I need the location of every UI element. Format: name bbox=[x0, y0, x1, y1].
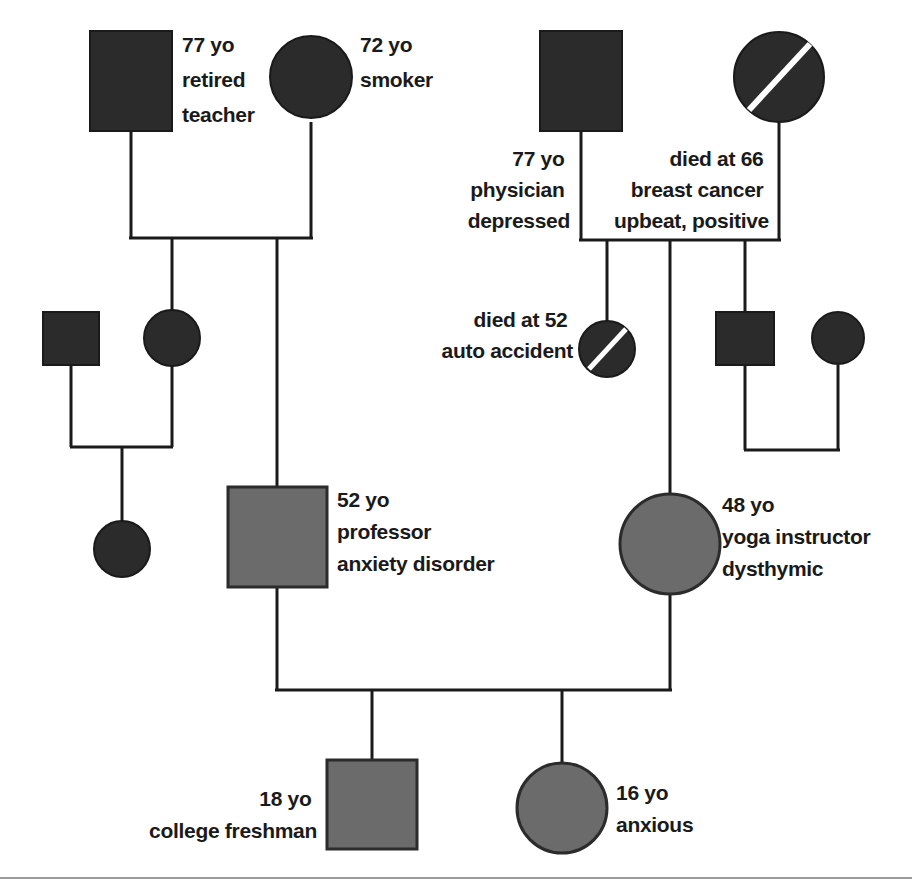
person-g2-right-female-spouse-circle[interactable] bbox=[812, 312, 864, 364]
person-g2-left-male-spouse-square[interactable] bbox=[43, 312, 99, 365]
label-index-female: 48 yo yoga instructor dysthymic bbox=[722, 493, 876, 580]
label-gp2-male-line3: depressed bbox=[468, 209, 570, 232]
label-gp1-male-line2: retired bbox=[182, 68, 245, 91]
label-index-female-line1: 48 yo bbox=[722, 493, 774, 516]
label-daughter-line2: anxious bbox=[616, 813, 693, 836]
label-index-male: 52 yo professor anxiety disorder bbox=[337, 488, 495, 575]
label-g2-deceased-sister: died at 52 auto accident bbox=[442, 308, 574, 362]
label-child-son: 18 yo college freshman bbox=[149, 787, 317, 842]
person-g2-deceased-sister-group[interactable] bbox=[579, 321, 635, 377]
label-gp2-male-line1: 77 yo bbox=[512, 147, 564, 170]
label-gp1-female: 72 yo smoker bbox=[360, 33, 433, 91]
label-gp2-female-line2: breast cancer bbox=[631, 178, 764, 201]
genogram-diagram: 77 yo retired teacher 72 yo smoker 77 yo… bbox=[0, 0, 912, 891]
label-gp2-female: died at 66 breast cancer upbeat, positiv… bbox=[614, 147, 769, 232]
label-gp1-male-line3: teacher bbox=[182, 103, 255, 126]
person-index-male-square[interactable] bbox=[228, 487, 327, 587]
label-index-male-line3: anxiety disorder bbox=[337, 552, 495, 575]
person-gp1-male-square[interactable] bbox=[90, 31, 172, 131]
label-gp1-male: 77 yo retired teacher bbox=[182, 33, 255, 126]
person-child-son-square[interactable] bbox=[327, 760, 417, 849]
person-g2-left-female-circle[interactable] bbox=[144, 310, 200, 366]
person-g2-right-male-square[interactable] bbox=[716, 312, 774, 365]
person-gp1-female-circle[interactable] bbox=[270, 36, 352, 118]
label-son-line2: college freshman bbox=[149, 819, 317, 842]
person-index-female-circle[interactable] bbox=[620, 494, 720, 594]
person-g3-left-child-circle[interactable] bbox=[94, 521, 150, 577]
label-gp2-male-line2: physician bbox=[470, 178, 564, 201]
label-index-male-line2: professor bbox=[337, 520, 431, 543]
label-gp2-male: 77 yo physician depressed bbox=[468, 147, 570, 232]
label-child-daughter: 16 yo anxious bbox=[616, 781, 693, 836]
label-index-female-line2: yoga instructor bbox=[722, 525, 870, 548]
label-index-female-line3: dysthymic bbox=[722, 557, 824, 580]
person-child-daughter-circle[interactable] bbox=[517, 763, 607, 853]
person-gp2-female-group[interactable] bbox=[734, 32, 824, 122]
label-gp1-male-line1: 77 yo bbox=[182, 33, 234, 56]
label-deceased-sister-line1: died at 52 bbox=[474, 308, 568, 331]
label-daughter-line1: 16 yo bbox=[616, 781, 668, 804]
label-gp2-female-line1: died at 66 bbox=[670, 147, 764, 170]
label-gp1-female-line1: 72 yo bbox=[360, 33, 412, 56]
genogram-canvas: 77 yo retired teacher 72 yo smoker 77 yo… bbox=[0, 0, 912, 891]
label-index-male-line1: 52 yo bbox=[337, 488, 389, 511]
label-gp2-female-line3: upbeat, positive bbox=[614, 209, 769, 232]
person-gp2-male-square[interactable] bbox=[540, 31, 622, 131]
label-gp1-female-line2: smoker bbox=[360, 68, 433, 91]
label-son-line1: 18 yo bbox=[259, 787, 311, 810]
label-deceased-sister-line2: auto accident bbox=[442, 339, 574, 362]
